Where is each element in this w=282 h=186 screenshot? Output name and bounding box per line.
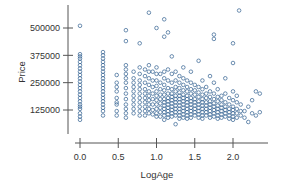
x-axis-title: LogAge bbox=[141, 169, 174, 180]
data-point bbox=[231, 90, 235, 94]
data-point bbox=[132, 81, 136, 85]
data-point bbox=[143, 114, 147, 118]
data-point bbox=[193, 83, 197, 87]
data-point bbox=[235, 94, 239, 98]
data-point bbox=[231, 98, 235, 102]
data-point bbox=[220, 94, 224, 98]
data-point bbox=[155, 84, 159, 88]
data-point bbox=[162, 70, 166, 74]
data-point bbox=[115, 96, 119, 100]
data-point bbox=[247, 120, 251, 124]
data-point bbox=[143, 68, 147, 72]
data-point bbox=[197, 91, 201, 95]
data-point bbox=[159, 102, 163, 106]
data-point bbox=[124, 92, 128, 96]
data-point bbox=[166, 79, 170, 83]
data-point bbox=[216, 87, 220, 91]
data-point bbox=[138, 105, 142, 109]
data-point bbox=[174, 122, 178, 126]
data-point bbox=[159, 72, 163, 76]
data-point bbox=[78, 107, 82, 111]
data-point bbox=[162, 93, 166, 97]
data-point bbox=[212, 97, 216, 101]
data-point bbox=[124, 77, 128, 81]
data-point bbox=[124, 112, 128, 116]
data-point bbox=[204, 96, 208, 100]
data-point bbox=[254, 90, 258, 94]
data-point bbox=[101, 114, 105, 118]
data-point bbox=[166, 86, 170, 90]
data-point bbox=[162, 89, 166, 93]
y-axis-title: Price bbox=[16, 61, 27, 83]
data-point bbox=[174, 85, 178, 89]
data-point bbox=[224, 77, 228, 81]
data-point bbox=[132, 107, 136, 111]
data-point bbox=[162, 18, 166, 22]
x-tick-label: 1.5 bbox=[188, 152, 201, 162]
data-point bbox=[132, 85, 136, 89]
data-point bbox=[178, 74, 182, 78]
data-point bbox=[151, 70, 155, 74]
data-point bbox=[197, 85, 201, 89]
data-point bbox=[115, 81, 119, 85]
data-point bbox=[124, 86, 128, 90]
data-point bbox=[189, 87, 193, 91]
data-point bbox=[220, 98, 224, 102]
data-point bbox=[124, 28, 128, 32]
data-point bbox=[147, 98, 151, 102]
data-point bbox=[212, 33, 216, 37]
data-point bbox=[115, 73, 119, 77]
data-point bbox=[115, 114, 119, 118]
data-point bbox=[143, 81, 147, 85]
y-tick-label: 125000 bbox=[30, 105, 60, 115]
data-point bbox=[208, 90, 212, 94]
data-point bbox=[189, 81, 193, 85]
data-point bbox=[115, 103, 119, 107]
data-point bbox=[124, 68, 128, 72]
data-point bbox=[115, 85, 119, 89]
data-point bbox=[147, 63, 151, 67]
data-point bbox=[170, 81, 174, 85]
data-point bbox=[178, 86, 182, 90]
data-point bbox=[132, 90, 136, 94]
data-point bbox=[132, 103, 136, 107]
data-point bbox=[174, 90, 178, 94]
data-point bbox=[138, 92, 142, 96]
scatter-chart: 125000250000375000500000 0.00.51.01.52.0… bbox=[0, 0, 282, 186]
data-point bbox=[182, 66, 186, 70]
data-point bbox=[159, 106, 163, 110]
data-point bbox=[204, 92, 208, 96]
data-point bbox=[227, 103, 231, 107]
data-point bbox=[166, 68, 170, 72]
data-point bbox=[159, 97, 163, 101]
data-point bbox=[155, 79, 159, 83]
data-point bbox=[258, 110, 262, 114]
data-point bbox=[147, 94, 151, 98]
data-point bbox=[124, 63, 128, 67]
data-point bbox=[115, 90, 119, 94]
data-point bbox=[115, 109, 119, 113]
data-point bbox=[147, 83, 151, 87]
y-tick-label: 250000 bbox=[30, 78, 60, 88]
data-point bbox=[170, 87, 174, 91]
data-point bbox=[155, 72, 159, 76]
data-point bbox=[182, 89, 186, 93]
data-point bbox=[147, 103, 151, 107]
data-point bbox=[143, 96, 147, 100]
data-point bbox=[235, 107, 239, 111]
data-point bbox=[151, 103, 155, 107]
data-point bbox=[159, 93, 163, 97]
data-point bbox=[132, 98, 136, 102]
data-point bbox=[155, 66, 159, 70]
data-point bbox=[138, 109, 142, 113]
data-point bbox=[151, 79, 155, 83]
data-point bbox=[208, 95, 212, 99]
data-point bbox=[250, 112, 254, 116]
data-point bbox=[178, 81, 182, 85]
data-point bbox=[143, 92, 147, 96]
data-point bbox=[138, 83, 142, 87]
data-point bbox=[185, 79, 189, 83]
data-point bbox=[204, 85, 208, 89]
data-point bbox=[212, 81, 216, 85]
data-point bbox=[182, 77, 186, 81]
